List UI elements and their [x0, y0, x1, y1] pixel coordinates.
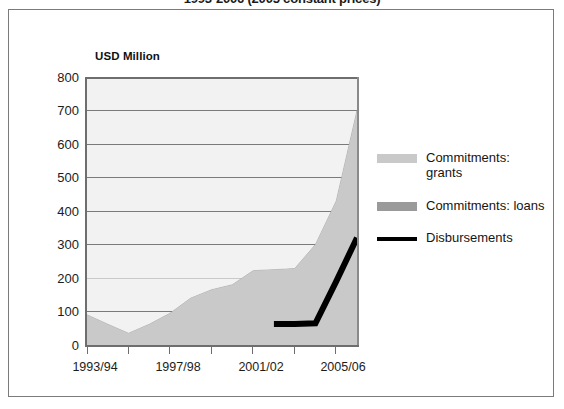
chart-series-svg [87, 77, 357, 345]
plot-border-left [85, 77, 87, 345]
legend-item-grants: Commitments: grants [377, 150, 552, 181]
legend-swatch-disbursements [377, 237, 417, 241]
y-axis-unit-label: USD Million [95, 50, 160, 62]
legend-swatch-loans [377, 202, 417, 211]
y-tick-label-400: 400 [17, 204, 79, 219]
legend-label-grants: Commitments: grants [426, 150, 548, 181]
chart-frame: USD Million 800 700 600 500 400 300 200 … [8, 9, 554, 397]
legend-item-disbursements: Disbursements [377, 230, 552, 245]
x-tick-0 [87, 345, 88, 354]
y-tick-label-100: 100 [17, 304, 79, 319]
y-tick-label-500: 500 [17, 170, 79, 185]
x-tick-8 [252, 345, 253, 354]
x-tick-12 [335, 345, 336, 354]
chart-title: 1993-2006 (2005 constant prices) [0, 0, 564, 9]
legend-swatch-grants [377, 154, 417, 163]
x-axis-label-1997: 1997/98 [155, 360, 200, 374]
y-tick-label-800: 800 [17, 70, 79, 85]
y-tick-label-0: 0 [17, 338, 79, 353]
x-axis-line [85, 345, 359, 347]
y-tick-label-200: 200 [17, 271, 79, 286]
x-tick-10 [294, 345, 295, 354]
x-tick-2 [128, 345, 129, 354]
plot-border-top [87, 77, 357, 79]
legend-item-loans: Commitments: loans [377, 198, 552, 213]
x-axis-label-2001: 2001/02 [238, 360, 283, 374]
legend-label-disbursements: Disbursements [426, 230, 513, 245]
y-tick-label-300: 300 [17, 237, 79, 252]
chart-legend: Commitments: grants Commitments: loans D… [377, 150, 552, 262]
y-tick-label-600: 600 [17, 137, 79, 152]
plot-border-right [357, 77, 359, 345]
y-tick-label-700: 700 [17, 103, 79, 118]
area-grants [87, 111, 357, 346]
legend-label-loans: Commitments: loans [426, 198, 544, 213]
chart-page: 1993-2006 (2005 constant prices) USD Mil… [0, 0, 564, 409]
x-tick-6 [211, 345, 212, 354]
plot-area [87, 77, 357, 345]
x-axis-label-1993: 1993/94 [72, 360, 117, 374]
x-axis-label-2005: 2005/06 [320, 360, 365, 374]
x-tick-4 [169, 345, 170, 354]
